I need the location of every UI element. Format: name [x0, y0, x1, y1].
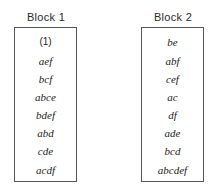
block-1-title: Block 1 [6, 11, 86, 23]
block-2-item: ade [142, 127, 203, 139]
block-1-item: bdef [15, 109, 76, 121]
block-1-item: (1) [15, 36, 76, 48]
block-1-item: aef [15, 55, 76, 67]
block-1-item: acdf [15, 164, 76, 176]
block-1-item: abce [15, 91, 76, 103]
block-2-item: abf [142, 55, 203, 67]
block-2-item: abcdef [142, 164, 203, 176]
block-2-item: bcd [142, 145, 203, 157]
block-1-item: abd [15, 127, 76, 139]
block-2-box: be abf cef ac df ade bcd abcdef [141, 27, 204, 182]
block-2-item: be [142, 36, 203, 48]
block-1-box: (1) aef bcf abce bdef abd cde acdf [14, 27, 77, 182]
block-1-item: bcf [15, 73, 76, 85]
block-1-item: cde [15, 145, 76, 157]
block-2-item: df [142, 109, 203, 121]
block-2-item: cef [142, 73, 203, 85]
block-2-title: Block 2 [133, 11, 213, 23]
block-2-item: ac [142, 91, 203, 103]
